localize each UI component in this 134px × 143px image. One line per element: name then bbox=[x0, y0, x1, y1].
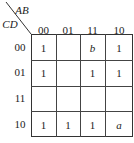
kmap-cell: 1 bbox=[80, 119, 105, 131]
row-header: 10 bbox=[10, 118, 30, 130]
kmap-cell: b bbox=[80, 42, 105, 54]
kmap-cell: 1 bbox=[105, 67, 133, 79]
kmap-cell: 1 bbox=[31, 42, 56, 54]
grid-line bbox=[31, 60, 133, 61]
grid-line bbox=[31, 111, 133, 112]
row-header: 00 bbox=[10, 41, 30, 53]
row-header: 01 bbox=[10, 66, 30, 78]
kmap-cell: 1 bbox=[105, 42, 133, 54]
kmap-cell: 1 bbox=[31, 119, 56, 131]
kmap-cell: 1 bbox=[80, 67, 105, 79]
kmap-cell: 1 bbox=[31, 67, 56, 79]
row-header: 11 bbox=[10, 92, 30, 104]
kmap-cell: 1 bbox=[56, 119, 80, 131]
kmap-cell: a bbox=[105, 119, 133, 131]
grid-line bbox=[31, 86, 133, 87]
row-variable-label: CD bbox=[1, 18, 19, 30]
col-variable-label: AB bbox=[13, 4, 31, 16]
